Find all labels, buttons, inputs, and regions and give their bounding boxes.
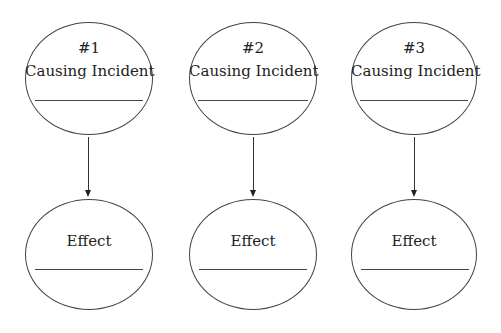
arrow-2 bbox=[253, 137, 254, 192]
arrow-3 bbox=[414, 137, 415, 192]
arrow-1 bbox=[88, 137, 89, 192]
cause-number-1: #1 bbox=[25, 39, 153, 57]
arrow-head-2 bbox=[250, 190, 256, 197]
cause-blank-line-3 bbox=[360, 100, 468, 101]
effect-blank-line-1 bbox=[35, 269, 143, 270]
cause-label-1: Causing Incident bbox=[25, 62, 153, 80]
arrow-head-3 bbox=[411, 190, 417, 197]
cause-number-2: #2 bbox=[189, 39, 317, 57]
effect-blank-line-2 bbox=[199, 269, 307, 270]
cause-blank-line-2 bbox=[198, 100, 308, 101]
effect-circle-1 bbox=[25, 199, 153, 310]
effect-label-1: Effect bbox=[25, 232, 153, 250]
cause-blank-line-1 bbox=[35, 100, 143, 101]
effect-circle-2 bbox=[189, 199, 317, 310]
effect-blank-line-3 bbox=[361, 269, 469, 270]
cause-label-3: Causing Incident bbox=[351, 62, 477, 80]
cause-number-3: #3 bbox=[351, 39, 477, 57]
effect-circle-3 bbox=[351, 199, 477, 310]
arrow-head-1 bbox=[85, 190, 91, 197]
effect-label-3: Effect bbox=[351, 232, 477, 250]
cause-label-2: Causing Incident bbox=[189, 62, 317, 80]
effect-label-2: Effect bbox=[189, 232, 317, 250]
